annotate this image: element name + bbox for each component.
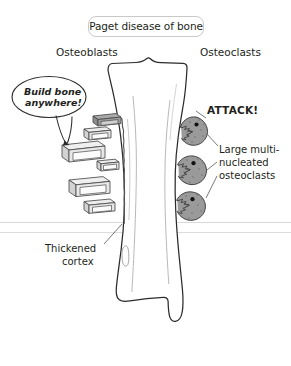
osteoblast-cell bbox=[97, 159, 119, 171]
osteoclast-callout-line-2: nucleated bbox=[219, 157, 269, 169]
osteoclast-cell bbox=[178, 156, 207, 185]
osteoblast-cell bbox=[69, 177, 110, 197]
osteoclast-callout-line-1: Large multi- bbox=[219, 144, 279, 156]
heading-osteoblasts: Osteoblasts bbox=[56, 46, 118, 58]
leader-osteoclast-3 bbox=[206, 176, 217, 198]
osteoblast-cell bbox=[93, 114, 121, 127]
cortex-callout-line-1: Thickened bbox=[45, 243, 96, 255]
attack-callout: ATTACK! bbox=[207, 104, 258, 116]
osteoclast-callout-line-3: osteoclasts bbox=[219, 170, 275, 182]
osteoblast-cell bbox=[84, 127, 111, 140]
leader-attack bbox=[196, 111, 206, 118]
cortical-lacuna bbox=[122, 246, 129, 266]
heading-osteoclasts: Osteoclasts bbox=[200, 46, 261, 58]
tibia-outline bbox=[108, 58, 187, 322]
tibia-bone bbox=[108, 58, 187, 322]
osteoblast-cell bbox=[84, 199, 115, 213]
page-title: Paget disease of bone bbox=[88, 20, 204, 32]
cortex-callout-line-2: cortex bbox=[62, 256, 94, 268]
speech-bubble-line-2: anywhere! bbox=[25, 97, 82, 108]
speech-bubble-line-1: Build bone bbox=[24, 86, 81, 97]
speech-tail-right bbox=[68, 117, 73, 144]
figure-canvas: Paget disease of bone Osteoblasts Osteoc… bbox=[0, 0, 291, 366]
osteoclast-group bbox=[177, 117, 208, 220]
speech-tail-left bbox=[56, 116, 66, 143]
leader-thickened-cortex bbox=[104, 224, 122, 244]
leader-osteoclast-1 bbox=[207, 134, 218, 146]
leader-osteoclast-2 bbox=[207, 162, 217, 170]
osteoclast-cell bbox=[177, 192, 206, 221]
osteoclast-cell bbox=[180, 117, 207, 145]
